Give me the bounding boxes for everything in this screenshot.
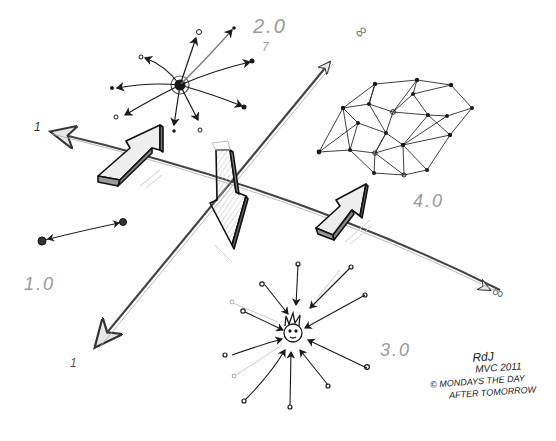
label-seven: 7 bbox=[262, 40, 271, 54]
block-arrow-left bbox=[98, 125, 163, 186]
block-arrow-down bbox=[210, 141, 248, 249]
label-web-3-0: 3.0 bbox=[380, 340, 411, 361]
label-axis-one-bottom: 1 bbox=[70, 356, 79, 370]
network-2-0-hub bbox=[117, 30, 250, 125]
label-web-2-0: 2.0 bbox=[253, 15, 287, 38]
label-web-1-0: 1.0 bbox=[24, 274, 55, 295]
block-arrow-right bbox=[316, 184, 368, 240]
face-icon bbox=[284, 313, 302, 342]
network-1-0-link bbox=[38, 219, 127, 246]
label-web-4-0: 4.0 bbox=[413, 191, 444, 212]
network-4-0-nodes bbox=[317, 78, 474, 177]
network-3-0-faint-arrows bbox=[233, 270, 340, 375]
label-axis-one-left: 1 bbox=[34, 120, 43, 134]
signature-block: RdJ MVC 2011 © MONDAYS THE DAY AFTER TOM… bbox=[468, 347, 537, 399]
axis-horizontal bbox=[52, 132, 500, 292]
network-4-0-mesh bbox=[319, 80, 472, 175]
